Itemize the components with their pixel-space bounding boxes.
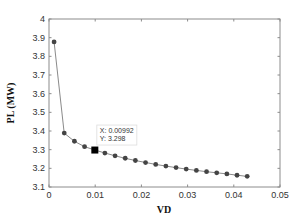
data-point[interactable] bbox=[103, 151, 108, 156]
data-point[interactable] bbox=[204, 169, 209, 174]
data-point[interactable] bbox=[245, 174, 250, 179]
y-tick-label: 3.9 bbox=[32, 33, 45, 43]
data-point[interactable] bbox=[194, 168, 199, 173]
data-point[interactable] bbox=[123, 156, 128, 161]
axes-frame bbox=[49, 19, 280, 187]
y-tick-label: 3.7 bbox=[32, 70, 45, 80]
data-point[interactable] bbox=[72, 139, 77, 144]
y-tick-label: 3.3 bbox=[32, 145, 45, 155]
data-point[interactable] bbox=[174, 165, 179, 170]
data-point[interactable] bbox=[52, 40, 57, 45]
data-point[interactable] bbox=[82, 144, 87, 149]
data-point[interactable] bbox=[143, 160, 148, 165]
datatip-text: X: 0.00992 bbox=[100, 127, 134, 134]
y-tick-label: 4 bbox=[40, 14, 45, 24]
datatip-marker[interactable] bbox=[91, 147, 98, 154]
data-point[interactable] bbox=[224, 172, 229, 177]
y-tick-label: 3.4 bbox=[32, 126, 45, 136]
x-tick-label: 0.03 bbox=[179, 190, 197, 200]
data-point[interactable] bbox=[153, 162, 158, 167]
y-tick-label: 3.6 bbox=[32, 89, 45, 99]
y-tick-label: 3.2 bbox=[32, 163, 45, 173]
plot-area bbox=[49, 19, 280, 187]
data-point[interactable] bbox=[133, 158, 138, 163]
y-tick-label: 3.5 bbox=[32, 107, 45, 117]
data-point[interactable] bbox=[214, 170, 219, 175]
axis-ticks: 00.010.020.030.040.053.13.23.33.43.53.63… bbox=[32, 14, 288, 200]
x-tick-label: 0.01 bbox=[86, 190, 104, 200]
y-axis-label: PL (MW) bbox=[5, 83, 17, 124]
data-point[interactable] bbox=[62, 131, 67, 136]
x-axis-label: VD bbox=[157, 204, 171, 215]
datatip-text: Y: 3.298 bbox=[100, 135, 126, 142]
x-tick-label: 0.05 bbox=[271, 190, 289, 200]
datatip[interactable]: X: 0.00992Y: 3.298 bbox=[91, 125, 137, 153]
data-point[interactable] bbox=[163, 164, 168, 169]
x-tick-label: 0.02 bbox=[133, 190, 151, 200]
x-tick-label: 0 bbox=[46, 190, 51, 200]
data-point[interactable] bbox=[184, 167, 189, 172]
x-tick-label: 0.04 bbox=[225, 190, 243, 200]
y-tick-label: 3.1 bbox=[32, 182, 45, 192]
series-line bbox=[54, 42, 247, 176]
data-point[interactable] bbox=[113, 153, 118, 158]
data-point[interactable] bbox=[235, 173, 240, 178]
y-tick-label: 3.8 bbox=[32, 51, 45, 61]
chart: 00.010.020.030.040.053.13.23.33.43.53.63… bbox=[0, 0, 304, 222]
data-series bbox=[52, 40, 250, 179]
